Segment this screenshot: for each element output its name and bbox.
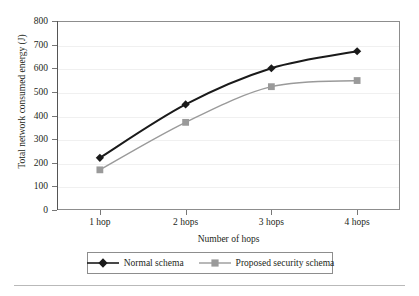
- x-axis-tick: [186, 210, 187, 215]
- x-axis-tick-label: 2 hops: [156, 217, 216, 228]
- y-axis-tick-label: 0: [18, 205, 48, 215]
- y-axis-tick: [52, 116, 57, 117]
- y-axis-tick: [52, 186, 57, 187]
- gridline: [58, 187, 399, 188]
- x-axis-tick: [357, 210, 358, 215]
- y-axis-tick-label: 700: [18, 40, 48, 50]
- legend-label-proposed-security-schema: Proposed security schema: [236, 258, 335, 269]
- x-axis-tick-label: 4 hops: [327, 217, 387, 228]
- x-axis-tick: [271, 210, 272, 215]
- y-axis-tick: [52, 139, 57, 140]
- y-axis-tick: [52, 45, 57, 46]
- y-axis-tick: [52, 21, 57, 22]
- y-axis-tick: [52, 68, 57, 69]
- y-axis-tick-label: 600: [18, 63, 48, 73]
- bottom-divider-rule: [14, 285, 405, 286]
- gridline: [58, 164, 399, 165]
- x-axis-title: Number of hops: [57, 234, 400, 245]
- y-axis-tick: [52, 92, 57, 93]
- gridline: [58, 140, 399, 141]
- x-axis-tick-label: 3 hops: [241, 217, 301, 228]
- plot-area: [57, 21, 400, 210]
- gridline: [58, 46, 399, 47]
- x-axis-tick-label: 1 hop: [70, 217, 130, 228]
- gridline: [58, 93, 399, 94]
- gridline: [58, 117, 399, 118]
- y-axis-tick: [52, 210, 57, 211]
- y-axis-tick-label: 500: [18, 87, 48, 97]
- y-axis-tick-label: 400: [18, 111, 48, 121]
- x-axis-tick: [100, 210, 101, 215]
- legend-entry-normal-schema[interactable]: Normal schema: [86, 257, 184, 269]
- legend-entry-proposed-security-schema[interactable]: Proposed security schema: [198, 257, 335, 269]
- y-axis-tick-label: 800: [18, 16, 48, 26]
- y-axis-tick-label: 100: [18, 181, 48, 191]
- y-axis-tick-label: 200: [18, 158, 48, 168]
- square-marker-icon: [198, 257, 232, 269]
- diamond-marker-icon: [86, 257, 120, 269]
- chart-legend: Normal schema Proposed security schema: [87, 252, 333, 274]
- gridline: [58, 69, 399, 70]
- legend-label-normal-schema: Normal schema: [124, 258, 184, 269]
- y-axis-line: [57, 21, 58, 210]
- y-axis-tick-label: 300: [18, 134, 48, 144]
- figure-container: Total network consumed energy (J) 010020…: [0, 0, 419, 296]
- y-axis-tick: [52, 163, 57, 164]
